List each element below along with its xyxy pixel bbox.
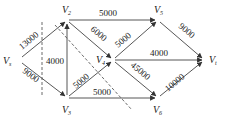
- weight-v4-v5: 5000: [113, 30, 134, 50]
- weight-v4-vt: 4000: [150, 48, 169, 58]
- weight-v2-v5: 5000: [99, 8, 118, 18]
- node-v2: V2: [62, 4, 71, 16]
- node-v6: V6: [153, 104, 162, 116]
- weight-v3-v4: 5000: [71, 71, 92, 91]
- weight-v3-v6: 5000: [93, 87, 112, 97]
- weight-v2-v4: 6000: [89, 24, 110, 44]
- node-v5: V5: [154, 4, 163, 16]
- weight-v5-vt: 9000: [177, 21, 198, 41]
- node-vt: Vt: [209, 54, 217, 66]
- node-v3: V3: [62, 104, 71, 116]
- weight-v4-v6: 45000: [129, 60, 153, 82]
- node-v4: V4: [96, 54, 105, 66]
- weight-vs-v2: 13000: [17, 29, 41, 51]
- weight-v3-v2: 4000: [46, 56, 65, 66]
- weight-v6-vt: 10000: [163, 71, 187, 93]
- node-vs: Vs: [3, 55, 12, 67]
- weight-vs-v3: 9000: [21, 66, 42, 85]
- network-diagram: Vs V2 V3 V4 V5 V6 Vt 13000 9000 4000 500…: [0, 0, 231, 121]
